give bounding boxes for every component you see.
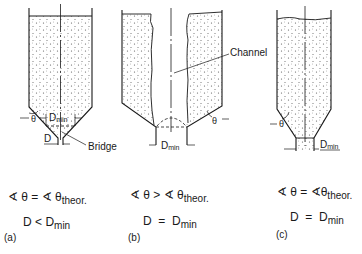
- condition-angle-c: ∢ θ = ∢θtheor.: [277, 185, 352, 201]
- bulk-solid-fill-c: [277, 19, 331, 151]
- bridge-label: Bridge: [88, 141, 117, 152]
- dmin-label-b: Dmin: [161, 140, 180, 151]
- channel-label: Channel: [230, 47, 267, 58]
- caption-a: (a): [4, 232, 16, 243]
- condition-d-b: D = Dmin: [143, 214, 197, 230]
- caption-b: (b): [128, 232, 140, 243]
- hopper-c: θ Dmin: [270, 6, 340, 151]
- caption-c: (c): [276, 229, 288, 240]
- hopper-b: Dmin θ Channel: [122, 8, 267, 151]
- hopper-a: Dmin θ D Bridge: [20, 4, 117, 152]
- condition-d-c: D = Dmin: [290, 210, 344, 226]
- condition-angle-a: ∢ θ = ∢ θtheor.: [8, 190, 87, 206]
- theta-label-a: θ: [31, 114, 36, 124]
- theta-label-c: θ: [279, 119, 284, 129]
- theta-label-b: θ: [212, 116, 217, 126]
- dmin-label-c: Dmin: [320, 139, 339, 150]
- d-label-a: D: [44, 133, 51, 144]
- condition-d-a: D < Dmin: [23, 215, 70, 231]
- condition-angle-b: ∢ θ > ∢ θtheor.: [130, 188, 209, 204]
